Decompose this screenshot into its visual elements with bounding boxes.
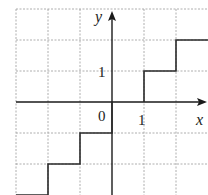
- step-function-graph: y x 0 1 1: [0, 0, 208, 195]
- y-axis-label: y: [93, 8, 103, 26]
- axes: [16, 16, 202, 195]
- y-tick-label-1: 1: [98, 64, 106, 80]
- origin-label: 0: [98, 108, 106, 124]
- x-axis-label: x: [195, 111, 203, 128]
- x-tick-label-1: 1: [138, 112, 146, 128]
